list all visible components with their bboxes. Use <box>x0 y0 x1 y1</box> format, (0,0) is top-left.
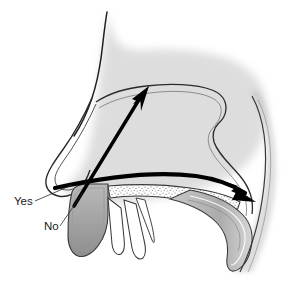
label-no: No <box>44 220 59 232</box>
teeth-alveolar-process <box>108 198 154 259</box>
nasal-spray-diagram: Yes No <box>0 0 295 283</box>
label-yes: Yes <box>14 195 33 207</box>
diagram-canvas: Yes No <box>0 0 295 283</box>
turbinate-tissue <box>68 184 108 257</box>
